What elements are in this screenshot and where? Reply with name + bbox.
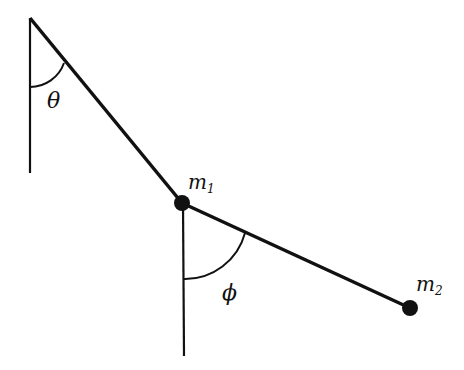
m1-label: m1: [188, 170, 215, 196]
vertical-reference-m1: [183, 203, 184, 356]
theta-label: θ: [47, 88, 60, 113]
m2-label-subscript: 2: [435, 284, 443, 298]
m1-label-base: m: [188, 170, 207, 194]
rod-2: [182, 203, 410, 308]
phi-arc: [184, 233, 245, 279]
double-pendulum-diagram: θ ϕ m1 m2: [0, 0, 464, 370]
diagram-drawing: [0, 0, 464, 370]
theta-arc: [30, 63, 64, 87]
phi-label: ϕ: [222, 280, 237, 305]
m1-label-subscript: 1: [207, 182, 215, 196]
mass-2: [402, 300, 418, 316]
mass-1: [174, 195, 190, 211]
m2-label: m2: [416, 272, 443, 298]
m2-label-base: m: [416, 272, 435, 296]
